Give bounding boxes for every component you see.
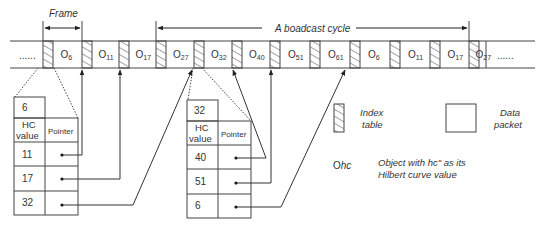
hc-row-1: 11 [22,149,33,160]
data-packet-label: O40 [249,49,265,61]
index-table-1-key: 6 [22,102,28,113]
data-packet-label: O17 [448,49,464,61]
col-pointer: Pointer [48,127,74,136]
col-pointer: Pointer [221,130,247,139]
index-block [156,41,166,68]
index-block [194,41,204,68]
legend-data-packet-swatch [446,104,476,132]
index-block [390,41,400,68]
legend-index-table-swatch [334,104,344,132]
data-packet-label: O32 [211,49,227,61]
data-packet-label: O27 [476,49,492,61]
index-block [270,41,280,68]
data-packet-label: O51 [288,49,304,61]
broadcast-index-diagram: ...... ...... O6O11O17O27O32O40O51O61O6O… [0,0,545,231]
col-hc-line2: value [189,133,212,144]
index-table-2: 32 HC value Pointer 40 51 6 [187,68,345,218]
legend-packet-line2: packet [493,119,522,130]
data-packet-label: O6 [61,49,73,61]
legend-object-desc-line1: Object with hc" as its [378,157,466,168]
frame-label: Frame [49,8,78,19]
hc-row-2: 17 [22,173,34,184]
strip-cells: O6O11O17O27O32O40O51O61O6O11O17O27 [43,41,491,68]
hc-row-3: 32 [22,197,34,208]
broadcast-cycle-annotation: A boadcast cycle [156,21,469,41]
hc-row-2: 51 [195,176,207,187]
legend-index-line2: table [362,119,383,130]
col-hc-line1: HC [22,119,36,130]
legend-object-desc-line2: Hilbert curve value [378,169,457,180]
index-block [310,41,320,68]
index-block [232,41,242,68]
ellipsis-right: ...... [497,50,514,61]
data-packet-label: O6 [368,49,380,61]
legend-object-symbol: Ohc [333,160,351,171]
index-table-1: 6 HC value Pointer 11 17 32 [14,68,192,215]
frame-annotation: Frame [43,8,82,41]
index-block [43,41,53,68]
col-hc-line2: value [16,130,39,141]
legend-packet-line1: Data [500,107,520,118]
hc-row-3: 6 [195,200,201,211]
broadcast-cycle-label: A boadcast cycle [274,23,351,34]
data-packet-label: O17 [136,49,152,61]
index-block [350,41,360,68]
data-packet-label: O61 [328,49,344,61]
index-block [119,41,129,68]
data-packet-label: O11 [408,49,423,61]
index-block [82,41,92,68]
data-packet-label: O11 [99,49,114,61]
legend: Index table Data packet Ohc Object with … [333,104,522,180]
index-table-2-key: 32 [194,105,206,116]
legend-index-line1: Index [360,107,384,118]
col-hc-line1: HC [195,122,209,133]
hc-row-1: 40 [195,152,207,163]
index-block [430,41,440,68]
ellipsis-left: ...... [19,50,36,61]
data-packet-label: O27 [173,49,189,61]
